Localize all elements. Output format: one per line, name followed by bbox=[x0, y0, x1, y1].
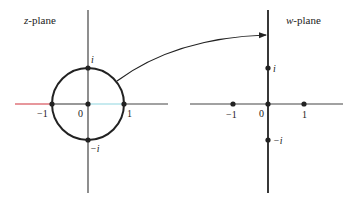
w-point-one bbox=[301, 101, 306, 106]
w-point-origin bbox=[265, 101, 270, 106]
z-label-one: 1 bbox=[127, 108, 132, 119]
w-label-origin: 0 bbox=[259, 108, 264, 119]
z-label-neg-i: −i bbox=[90, 143, 100, 154]
z-point-origin bbox=[85, 101, 90, 106]
z-point-i bbox=[85, 65, 90, 70]
w-point-i bbox=[265, 65, 270, 70]
w-label-i: i bbox=[273, 63, 276, 74]
diagram-canvas: z-plane 0 1 −1 i −i w-plane 0 1 −1 i −i bbox=[0, 0, 363, 204]
mapping-arrow bbox=[117, 35, 266, 81]
w-label-one: 1 bbox=[302, 109, 307, 120]
z-plane: z-plane 0 1 −1 i −i bbox=[15, 10, 168, 193]
z-label-origin: 0 bbox=[78, 108, 83, 119]
z-plane-title: z-plane bbox=[23, 14, 56, 26]
z-point-neg-one bbox=[49, 101, 54, 106]
w-label-neg-i: −i bbox=[273, 135, 283, 146]
z-label-neg-one: −1 bbox=[37, 108, 48, 119]
w-plane-title: w-plane bbox=[286, 14, 321, 26]
w-plane: w-plane 0 1 −1 i −i bbox=[190, 10, 343, 193]
w-point-neg-i bbox=[265, 137, 270, 142]
z-point-neg-i bbox=[85, 137, 90, 142]
w-point-neg-one bbox=[230, 101, 235, 106]
w-label-neg-one: −1 bbox=[226, 109, 237, 120]
z-point-one bbox=[121, 101, 126, 106]
z-label-i: i bbox=[91, 54, 94, 65]
